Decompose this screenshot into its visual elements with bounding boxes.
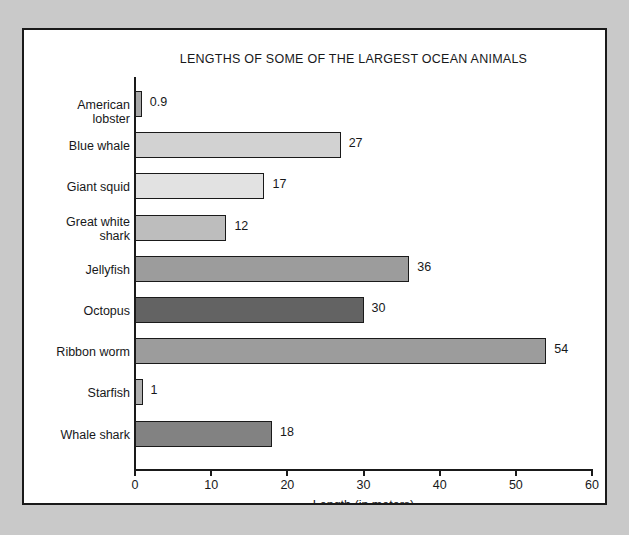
chart-title: LENGTHS OF SOME OF THE LARGEST OCEAN ANI… — [24, 52, 605, 66]
x-tick-label: 0 — [132, 478, 139, 492]
bar — [135, 215, 226, 241]
bar-value-label: 36 — [417, 260, 431, 274]
bar-row: 27 — [135, 132, 592, 158]
bar-row: 30 — [135, 297, 592, 323]
bar — [135, 132, 341, 158]
category-label: Jellyfish — [40, 263, 130, 277]
chart-frame: LENGTHS OF SOME OF THE LARGEST OCEAN ANI… — [22, 28, 607, 505]
bar — [135, 256, 409, 282]
category-label: Great white shark — [40, 215, 130, 243]
bar-value-label: 12 — [234, 219, 248, 233]
bar-value-label: 1 — [151, 383, 158, 397]
x-tick-label: 60 — [585, 478, 599, 492]
bar — [135, 173, 264, 199]
bar-value-label: 17 — [272, 177, 286, 191]
bar — [135, 421, 272, 447]
category-label: Whale shark — [40, 428, 130, 442]
x-axis-title: Length (in meters) — [135, 498, 592, 505]
bar-row: 0.9 — [135, 91, 592, 117]
bar-row: 1 — [135, 379, 592, 405]
x-tick-label: 30 — [357, 478, 371, 492]
bar-row: 18 — [135, 421, 592, 447]
bar — [135, 297, 364, 323]
bar-row: 12 — [135, 215, 592, 241]
bar-value-label: 18 — [280, 425, 294, 439]
x-tick — [134, 469, 136, 476]
bar — [135, 379, 143, 405]
x-tick — [515, 469, 517, 476]
x-tick — [363, 469, 365, 476]
category-label: Blue whale — [40, 139, 130, 153]
x-tick — [439, 469, 441, 476]
bar-row: 54 — [135, 338, 592, 364]
category-label: Octopus — [40, 304, 130, 318]
category-label: Starfish — [40, 386, 130, 400]
bar-value-label: 30 — [372, 301, 386, 315]
bar — [135, 338, 546, 364]
category-label: Giant squid — [40, 180, 130, 194]
x-tick — [210, 469, 212, 476]
x-tick — [591, 469, 593, 476]
bar-value-label: 0.9 — [150, 95, 167, 109]
x-tick — [286, 469, 288, 476]
bar-value-label: 54 — [554, 342, 568, 356]
category-label: American lobster — [40, 98, 130, 126]
x-tick-label: 20 — [280, 478, 294, 492]
bar-row: 17 — [135, 173, 592, 199]
bar — [135, 91, 142, 117]
bar-value-label: 27 — [349, 136, 363, 150]
bar-row: 36 — [135, 256, 592, 282]
x-tick-label: 40 — [433, 478, 447, 492]
x-tick-label: 10 — [204, 478, 218, 492]
plot-area: American lobsterBlue whaleGiant squidGre… — [135, 77, 592, 470]
category-label: Ribbon worm — [40, 345, 130, 359]
x-tick-label: 50 — [509, 478, 523, 492]
category-labels: American lobsterBlue whaleGiant squidGre… — [40, 77, 135, 470]
